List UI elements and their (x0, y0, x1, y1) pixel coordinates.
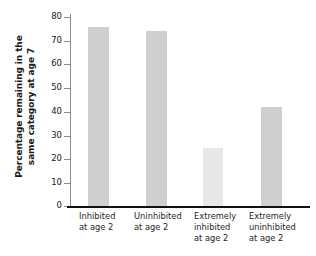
x-category-label-1-line-1: Uninhibited (134, 211, 182, 222)
x-category-label-2-line-3: at age 2 (194, 233, 236, 244)
x-axis-line (67, 206, 310, 208)
x-category-label-1: Uninhibited at age 2 (134, 211, 182, 233)
bar-chart-figure: Percentage remaining in the same categor… (0, 0, 316, 256)
x-category-label-3: Extremely uninhibited at age 2 (249, 211, 296, 244)
x-category-label-2-line-1: Extremely (194, 211, 236, 222)
bars-layer (0, 0, 316, 207)
x-category-label-0-line-2: at age 2 (79, 222, 115, 233)
x-category-label-1-line-2: at age 2 (134, 222, 182, 233)
x-category-label-3-line-1: Extremely (249, 211, 296, 222)
x-category-label-3-line-3: at age 2 (249, 233, 296, 244)
bar-uninhibited-at-age-2[interactable] (146, 31, 167, 207)
x-category-label-0-line-1: Inhibited (79, 211, 115, 222)
bar-extremely-inhibited-at-age-2[interactable] (203, 148, 223, 207)
x-category-label-3-line-2: uninhibited (249, 222, 296, 233)
x-category-label-0: Inhibited at age 2 (79, 211, 115, 233)
x-category-label-2: Extremely inhibited at age 2 (194, 211, 236, 244)
bar-inhibited-at-age-2[interactable] (88, 27, 109, 208)
x-category-label-2-line-2: inhibited (194, 222, 236, 233)
bar-extremely-uninhibited-at-age-2[interactable] (261, 107, 282, 207)
